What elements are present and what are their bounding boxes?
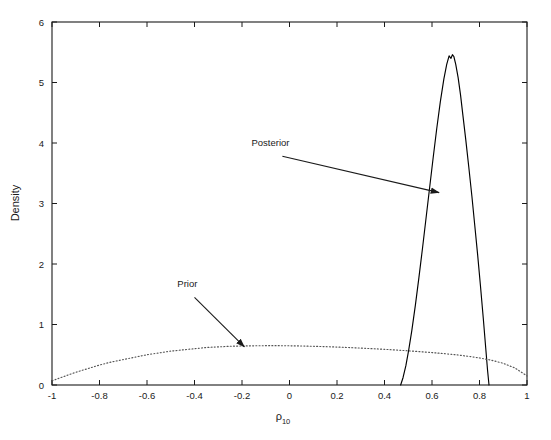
density-plot: -1-0.8-0.6-0.4-0.200.20.40.60.81 0123456… [0, 0, 551, 440]
y-tick-label-3: 3 [39, 198, 44, 209]
y-tick-label-2: 2 [39, 259, 44, 270]
x-axis-title: ρ10 [276, 410, 291, 426]
annotation-label-posterior: Posterior [251, 137, 289, 148]
x-tick-label-5: 0 [287, 390, 292, 401]
x-axis-ticks [52, 22, 527, 385]
y-axis-ticks [52, 22, 527, 385]
x-tick-label-1: -0.8 [91, 390, 107, 401]
x-tick-label-7: 0.4 [378, 390, 391, 401]
x-tick-label-10: 1 [524, 390, 529, 401]
series-prior-curve [52, 346, 527, 381]
y-tick-label-4: 4 [39, 138, 44, 149]
x-tick-label-2: -0.6 [139, 390, 155, 401]
x-axis-tick-labels: -1-0.8-0.6-0.4-0.200.20.40.60.81 [48, 390, 530, 401]
series-posterior-curve [401, 55, 489, 385]
annotation-arrow-posterior [282, 156, 439, 192]
annotation-label-prior: Prior [177, 278, 197, 289]
y-tick-label-5: 5 [39, 77, 44, 88]
y-tick-label-0: 0 [39, 380, 44, 391]
annotation-arrow-prior [195, 297, 245, 347]
plot-frame [52, 22, 527, 385]
annotations-group: PosteriorPrior [177, 137, 439, 347]
x-tick-label-3: -0.4 [186, 390, 202, 401]
x-axis-title-subscript: 10 [282, 417, 290, 426]
x-tick-label-4: -0.2 [234, 390, 250, 401]
x-tick-label-9: 0.8 [473, 390, 486, 401]
x-tick-label-0: -1 [48, 390, 56, 401]
y-tick-label-6: 6 [39, 17, 44, 28]
y-axis-tick-labels: 0123456 [39, 17, 44, 391]
figure-container: -1-0.8-0.6-0.4-0.200.20.40.60.81 0123456… [0, 0, 551, 440]
y-axis-title: Density [9, 184, 21, 221]
x-tick-label-6: 0.2 [330, 390, 343, 401]
data-series-group [52, 55, 527, 385]
x-tick-label-8: 0.6 [425, 390, 438, 401]
y-tick-label-1: 1 [39, 319, 44, 330]
